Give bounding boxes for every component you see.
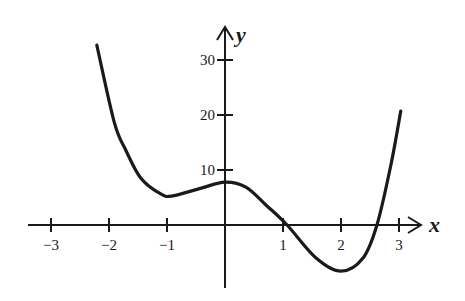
y-tick-label: 30: [200, 52, 215, 68]
function-curve: [97, 45, 401, 271]
function-graph: −3−2−1123 x 102030 y: [0, 0, 465, 301]
x-axis-label: x: [428, 212, 440, 237]
y-tick-label: 10: [200, 162, 215, 178]
x-tick-label: −2: [101, 237, 117, 253]
y-axis: 102030 y: [200, 22, 246, 288]
x-tick-label: −1: [159, 237, 175, 253]
x-tick-label: 2: [337, 237, 345, 253]
y-axis-label: y: [233, 22, 246, 47]
y-tick-label: 20: [200, 107, 215, 123]
x-tick-label: −3: [43, 237, 59, 253]
x-tick-label: 1: [279, 237, 287, 253]
x-tick-label: 3: [395, 237, 403, 253]
